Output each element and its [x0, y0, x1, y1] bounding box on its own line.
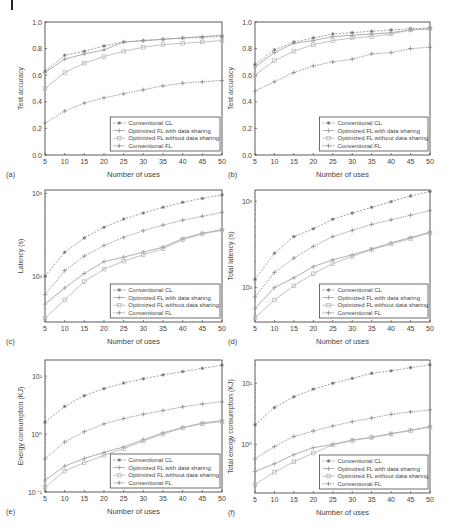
y-tick-label: 0.8 — [32, 45, 42, 52]
x-tick-label: 30 — [348, 158, 356, 165]
legend-label: Conventional CL — [128, 287, 173, 293]
y-tick-label: 10³ — [32, 190, 43, 197]
y-axis-label: Test accuracy — [227, 67, 235, 110]
legend-label: Conventional CL — [338, 120, 383, 126]
plus-marker — [82, 429, 86, 433]
plus-marker — [121, 235, 125, 239]
plus-marker — [428, 45, 432, 49]
star-marker — [43, 274, 47, 278]
legend-label: Optimized FL without data sharing — [128, 135, 219, 141]
x-tick-label: 10 — [271, 158, 279, 165]
x-tick-label: 45 — [407, 325, 415, 332]
y-tick-label: 10¹ — [242, 380, 253, 387]
y-tick-label: 0.4 — [242, 98, 252, 105]
legend-label: Conventional FL — [128, 143, 172, 149]
legend: Conventional CLOptimized FL with data sh… — [320, 117, 429, 151]
plus-marker — [102, 243, 106, 247]
x-tick-label: 45 — [198, 158, 206, 165]
chart-c: 510152025303540455010²10³Number of usesL… — [6, 190, 226, 346]
x-tick-label: 30 — [348, 325, 356, 332]
x-tick-label: 25 — [120, 158, 128, 165]
plus-marker — [43, 457, 47, 461]
x-axis-label: Number of uses — [316, 337, 369, 346]
x-tick-label: 15 — [290, 496, 298, 503]
x-tick-label: 40 — [387, 496, 395, 503]
x-tick-label: 35 — [159, 158, 167, 165]
x-tick-label: 45 — [407, 158, 415, 165]
plus-marker — [350, 419, 354, 423]
legend-label: Optimized FL with data sharing — [128, 128, 210, 134]
panel-label: (e) — [6, 507, 16, 516]
series-line — [253, 363, 432, 426]
x-tick-label: 35 — [368, 496, 376, 503]
y-tick-label: 1.0 — [242, 19, 252, 26]
figure-grid: 51015202530354045500.00.20.40.60.81.0Num… — [0, 0, 449, 531]
x-axis-label: Number of uses — [107, 170, 160, 179]
legend-label: Optimized FL with data sharing — [128, 465, 210, 471]
legend-label: Optimized FL without data sharing — [338, 302, 429, 308]
x-tick-label: 40 — [179, 158, 187, 165]
plus-marker — [141, 412, 145, 416]
plus-marker — [82, 101, 86, 105]
star-marker — [122, 217, 126, 221]
legend-label: Optimized FL with data sharing — [338, 295, 420, 301]
plus-marker — [121, 40, 125, 44]
plus-marker — [253, 295, 257, 299]
y-tick-label: 0.2 — [32, 125, 42, 132]
x-tick-label: 15 — [80, 325, 88, 332]
plus-marker — [428, 208, 432, 212]
legend-label: Conventional CL — [128, 120, 173, 126]
legend-label: Conventional CL — [338, 458, 383, 464]
y-tick-label: 0.6 — [32, 72, 42, 79]
star-marker — [292, 395, 296, 399]
star-marker — [327, 121, 331, 125]
plus-marker — [311, 446, 315, 450]
series-line — [43, 33, 224, 75]
x-axis-label: Number of uses — [316, 170, 369, 179]
star-marker — [117, 121, 121, 125]
star-marker — [142, 377, 146, 381]
plus-marker — [220, 78, 224, 82]
plus-marker — [102, 422, 106, 426]
x-tick-label: 30 — [139, 495, 147, 502]
plus-marker — [331, 258, 335, 262]
plus-marker — [43, 292, 47, 296]
plus-marker — [292, 70, 296, 74]
plus-marker — [350, 57, 354, 61]
star-marker — [409, 194, 413, 198]
x-tick-label: 5 — [43, 158, 47, 165]
plus-marker — [253, 457, 257, 461]
plus-marker — [82, 456, 86, 460]
x-axis-label: Number of uses — [316, 508, 369, 517]
star-marker — [389, 200, 393, 204]
star-marker — [181, 370, 185, 374]
legend-label: Optimized FL without data sharing — [128, 302, 219, 308]
panel-label: (c) — [6, 337, 15, 346]
x-axis-label: Number of uses — [107, 507, 160, 516]
x-tick-label: 30 — [348, 496, 356, 503]
star-marker — [331, 217, 335, 221]
star-marker — [201, 367, 205, 371]
plus-marker — [200, 214, 204, 218]
y-tick-label: 10⁰ — [241, 441, 252, 448]
star-marker — [43, 420, 47, 424]
x-tick-label: 10 — [61, 495, 69, 502]
x-tick-label: 45 — [198, 495, 206, 502]
star-marker — [428, 190, 432, 194]
star-marker — [331, 381, 335, 385]
plus-marker — [292, 276, 296, 280]
x-tick-label: 10 — [271, 496, 279, 503]
x-tick-label: 25 — [329, 158, 337, 165]
star-marker — [142, 211, 146, 215]
plus-marker — [369, 52, 373, 56]
plus-marker — [200, 34, 204, 38]
star-marker — [220, 193, 224, 197]
legend: Conventional CLOptimized FL with data sh… — [110, 284, 220, 318]
plus-marker — [161, 223, 165, 227]
legend-label: Optimized FL with data sharing — [128, 295, 210, 301]
y-tick-label: 10² — [32, 273, 43, 280]
x-tick-label: 15 — [290, 158, 298, 165]
x-tick-label: 45 — [407, 496, 415, 503]
star-marker — [428, 363, 432, 367]
x-tick-label: 20 — [309, 496, 317, 503]
